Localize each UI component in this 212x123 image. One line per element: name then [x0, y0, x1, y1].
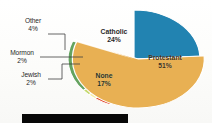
label-none-name: None [96, 72, 113, 79]
callout-mormon-name: Mormon [10, 49, 34, 56]
label-catholic-pct: 24% [92, 36, 136, 43]
redaction-bar [22, 114, 128, 123]
callout-mormon: Mormon 2% [0, 50, 44, 64]
label-catholic-name: Catholic [101, 28, 128, 35]
label-protestant: Protestant 51% [140, 54, 190, 69]
callout-other: Other 4% [12, 18, 54, 32]
callout-other-name: Other [25, 17, 41, 24]
chart-page: Other 4% Mormon 2% Jewish 2% Catholic 24… [0, 0, 212, 123]
label-none: None 17% [86, 72, 122, 87]
callout-other-pct: 4% [12, 26, 54, 33]
label-catholic: Catholic 24% [92, 28, 136, 43]
callout-jewish-pct: 2% [10, 80, 52, 87]
callout-mormon-pct: 2% [0, 58, 44, 65]
label-none-pct: 17% [86, 80, 122, 87]
callout-jewish: Jewish 2% [10, 72, 52, 86]
callout-jewish-name: Jewish [21, 71, 41, 78]
leader-line-other [48, 34, 65, 50]
pie-slice-catholic[interactable] [134, 10, 200, 59]
label-protestant-name: Protestant [148, 54, 182, 61]
label-protestant-pct: 51% [140, 62, 190, 69]
